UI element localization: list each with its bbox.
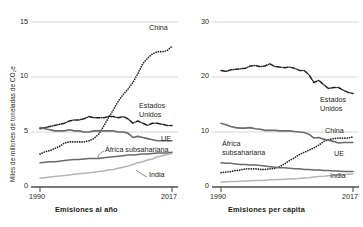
series-label-left-eu: UE [161, 135, 171, 144]
series-lines-right [221, 64, 353, 182]
x-axis-title-left: Emisiones al año [55, 205, 118, 214]
series-label-right-india: India [330, 172, 346, 181]
axis-right [212, 187, 359, 192]
series-label-right-africa: Áfricasubsahariana [222, 140, 265, 157]
panel-per-capita-emissions: Toneladas de CO₂e 30 20 10 0 EstadosUnid… [182, 0, 363, 227]
series-path [40, 128, 172, 141]
gridlines-right [212, 22, 359, 132]
axis-left [31, 187, 178, 192]
series-label-right-us: EstadosUnidos [320, 96, 346, 113]
emissions-figure: Miles de millones de toneladas de CO₂e 1… [0, 0, 363, 227]
series-label-left-africa: África subsahariana [105, 146, 169, 155]
series-path [221, 64, 353, 94]
series-label-left-us: EstadosUnidos [139, 102, 165, 119]
x-tick-left-1990: 1990 [29, 192, 45, 201]
series-label-left-india: India [149, 171, 165, 180]
x-tick-left-2017: 2017 [161, 192, 177, 201]
series-label-right-china: China [325, 127, 344, 136]
series-label-left-china: China [149, 24, 168, 33]
panel-annual-emissions: Miles de millones de toneladas de CO₂e 1… [0, 0, 182, 227]
x-tick-right-1990: 1990 [210, 192, 226, 201]
x-tick-right-2017: 2017 [342, 192, 358, 201]
series-label-right-eu: UE [334, 150, 344, 159]
x-axis-title-right: Emisiones per cápita [228, 205, 305, 214]
